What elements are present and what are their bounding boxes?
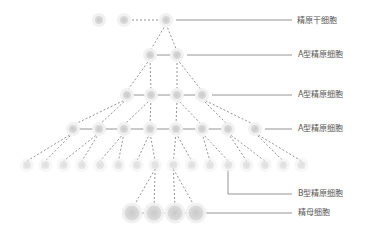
cell-stage-label: A型精原细胞 [298,124,343,134]
lineage-svg [0,0,372,240]
cell-stage-label: A型精原细胞 [298,90,343,100]
diagram: 精原干细胞A型精原细胞A型精原细胞A型精原细胞B型精原细胞精母细胞 [0,0,372,240]
cell-stage-label: A型精原细胞 [298,50,343,60]
cell-stage-label: B型精原细胞 [298,189,344,199]
cell-stage-label: 精母细胞 [298,208,330,218]
cell-stage-label: 精原干细胞 [297,16,337,26]
